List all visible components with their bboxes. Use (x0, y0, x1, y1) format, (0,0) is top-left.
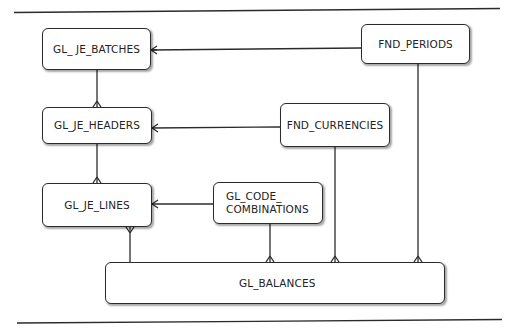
entity-label-line2: COMBINATIONS (226, 203, 309, 216)
entity-label: GL_JE_LINES (64, 199, 129, 212)
entity-gl-je-headers[interactable]: GL_JE_HEADERS (42, 107, 152, 144)
entity-gl-je-lines[interactable]: GL_JE_LINES (42, 183, 152, 227)
entity-gl-balances[interactable]: GL_BALANCES (105, 262, 445, 304)
entity-gl-code-combinations[interactable]: GL_CODE_ COMBINATIONS (213, 182, 323, 224)
entity-fnd-periods[interactable]: FND_PERIODS (361, 24, 470, 64)
entity-fnd-currencies[interactable]: FND_CURRENCIES (280, 103, 390, 147)
bottom-rule (17, 320, 502, 324)
entity-gl-je-batches[interactable]: GL_ JE_BATCHES (42, 28, 151, 70)
top-rule (14, 9, 500, 13)
entity-label: FND_CURRENCIES (287, 119, 383, 132)
entity-label: GL_ JE_BATCHES (53, 43, 140, 56)
entity-label: FND_PERIODS (378, 38, 453, 51)
entity-label: GL_BALANCES (239, 277, 315, 290)
entity-label: GL_JE_HEADERS (54, 119, 140, 132)
entity-label-line1: GL_CODE_ (226, 190, 309, 203)
